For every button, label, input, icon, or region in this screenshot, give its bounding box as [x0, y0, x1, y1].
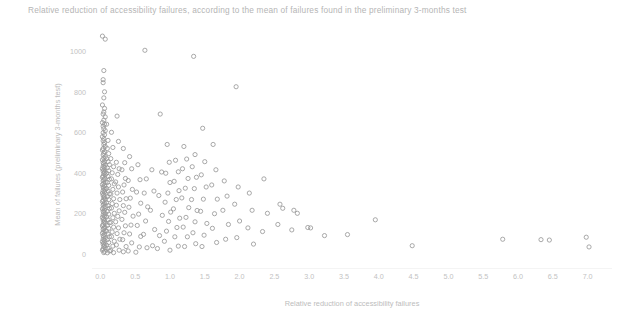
- scatter-point: [111, 225, 115, 229]
- scatter-point: [247, 191, 251, 195]
- scatter-point: [194, 242, 198, 246]
- scatter-point: [194, 175, 198, 179]
- scatter-point: [180, 167, 184, 171]
- scatter-point: [102, 90, 106, 94]
- scatter-point: [111, 187, 115, 191]
- scatter-point: [167, 160, 171, 164]
- scatter-point: [211, 142, 215, 146]
- scatter-point: [143, 48, 147, 52]
- scatter-point: [183, 186, 187, 190]
- scatter-point: [182, 144, 186, 148]
- scatter-point: [155, 246, 159, 250]
- scatter-point: [123, 224, 127, 228]
- scatter-point: [115, 231, 119, 235]
- scatter-point: [176, 244, 180, 248]
- scatter-point: [345, 232, 349, 236]
- scatter-point: [127, 155, 131, 159]
- scatter-point: [191, 231, 195, 235]
- scatter-point: [121, 238, 125, 242]
- scatter-point: [215, 197, 219, 201]
- scatter-point: [250, 208, 254, 212]
- scatter-point: [129, 223, 133, 227]
- scatter-point: [190, 165, 194, 169]
- x-axis-tick-label: 3.5: [339, 272, 349, 281]
- scatter-point: [142, 191, 146, 195]
- scatter-point: [308, 226, 312, 230]
- scatter-point: [171, 207, 175, 211]
- scatter-point: [110, 202, 114, 206]
- scatter-point: [130, 187, 134, 191]
- scatter-point: [114, 220, 118, 224]
- scatter-point: [290, 228, 294, 232]
- x-axis-tick-label: 0.5: [130, 272, 140, 281]
- scatter-point: [148, 208, 152, 212]
- scatter-point: [134, 250, 138, 254]
- scatter-point: [212, 212, 216, 216]
- scatter-point: [165, 142, 169, 146]
- y-axis-title: Mean of failures (preliminary 3-months t…: [53, 70, 62, 240]
- scatter-point: [111, 197, 115, 201]
- scatter-point: [262, 177, 266, 181]
- scatter-point: [150, 244, 154, 248]
- scatter-point: [204, 185, 208, 189]
- scatter-point: [116, 139, 120, 143]
- scatter-point: [181, 225, 185, 229]
- y-axis-tick-label: 600: [74, 128, 86, 137]
- scatter-point: [185, 235, 189, 239]
- scatter-point: [111, 145, 115, 149]
- scatter-point: [186, 176, 190, 180]
- scatter-point: [292, 208, 296, 212]
- y-axis-tick-label: 0: [82, 249, 86, 258]
- scatter-point: [226, 222, 230, 226]
- scatter-point: [180, 196, 184, 200]
- scatter-point: [163, 200, 167, 204]
- scatter-point: [200, 244, 204, 248]
- zero-baseline: [92, 268, 612, 269]
- scatter-point: [128, 196, 132, 200]
- scatter-point: [127, 205, 131, 209]
- scatter-point: [150, 168, 154, 172]
- scatter-point: [136, 163, 140, 167]
- x-axis-tick-label: 4.5: [409, 272, 419, 281]
- y-axis-tick-label: 800: [74, 87, 86, 96]
- scatter-point: [281, 206, 285, 210]
- x-axis-tick-label: 2.0: [235, 272, 245, 281]
- scatter-point: [201, 197, 205, 201]
- scatter-point: [158, 112, 162, 116]
- scatter-point: [202, 233, 206, 237]
- scatter-point: [111, 165, 115, 169]
- scatter-point: [182, 244, 186, 248]
- scatter-point: [112, 211, 116, 215]
- scatter-point: [205, 221, 209, 225]
- scatter-point: [122, 183, 126, 187]
- scatter-point: [115, 191, 119, 195]
- scatter-point: [157, 193, 161, 197]
- scatter-point: [152, 189, 156, 193]
- scatter-point: [123, 210, 127, 214]
- scatter-point: [233, 202, 237, 206]
- scatter-point: [115, 114, 119, 118]
- scatter-point: [172, 179, 176, 183]
- scatter-point: [110, 230, 114, 234]
- scatter-point: [373, 218, 377, 222]
- scatter-point: [265, 211, 269, 215]
- scatter-point: [192, 54, 196, 58]
- scatter-point: [138, 178, 142, 182]
- scatter-point: [160, 170, 164, 174]
- scatter-point: [322, 234, 326, 238]
- scatter-point: [120, 168, 124, 172]
- x-axis-title: Relative reduction of accessibility fail…: [92, 299, 612, 308]
- scatter-points-canvas: [92, 27, 612, 268]
- scatter-point: [116, 172, 120, 176]
- scatter-point: [117, 248, 121, 252]
- scatter-point: [114, 203, 118, 207]
- scatter-point: [410, 244, 414, 248]
- x-axis-tick-label: 1.0: [165, 272, 175, 281]
- scatter-point: [101, 81, 105, 85]
- scatter-point: [134, 190, 138, 194]
- scatter-point: [103, 37, 107, 41]
- scatter-point: [221, 208, 225, 212]
- scatter-point: [120, 217, 124, 221]
- scatter-point: [201, 126, 205, 130]
- scatter-point: [118, 197, 122, 201]
